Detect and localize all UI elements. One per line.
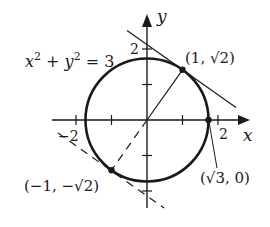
point-2-label: (−1, −√2): [24, 177, 99, 195]
point-1-label: (1, √2): [185, 49, 235, 67]
radius-to-point-1: [147, 70, 183, 120]
point-3-label: (√3, 0): [200, 169, 250, 187]
x-axis-label: x: [243, 125, 253, 145]
radius-to-point-2: [112, 120, 148, 170]
circle-tangent-diagram: x y −2 2 2 x2 + y2 = 3 (1, √2) (−1, −√2)…: [0, 0, 270, 227]
x-tick-label-neg2: −2: [58, 128, 79, 144]
y-axis-label: y: [156, 6, 167, 26]
leader-line-point-3: [209, 122, 217, 168]
equation-label: x2 + y2 = 3: [25, 50, 114, 71]
y-tick-label-pos2: 2: [130, 41, 139, 57]
point-3-marker: [205, 117, 211, 123]
x-tick-label-pos2: 2: [219, 126, 228, 142]
y-axis-arrow-icon: [142, 14, 152, 27]
x-axis-arrow-icon: [238, 115, 250, 125]
point-1-marker: [179, 67, 185, 73]
point-2-marker: [108, 167, 114, 173]
